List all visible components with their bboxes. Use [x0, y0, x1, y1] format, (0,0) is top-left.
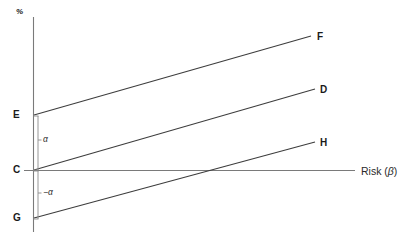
security-market-line-figure: % Risk (β) E C G F D H α −α	[0, 0, 417, 249]
chart-canvas	[0, 0, 417, 249]
point-label-f: F	[317, 31, 323, 42]
x-axis-label-text: Risk (	[361, 165, 388, 177]
series-line-cd	[34, 89, 315, 170]
x-axis-label-close: )	[394, 165, 398, 177]
y-axis-label: %	[16, 8, 23, 16]
series-line-ef	[34, 36, 311, 115]
point-label-e: E	[13, 109, 20, 120]
point-label-h: H	[320, 137, 327, 148]
point-label-d: D	[320, 84, 327, 95]
series-line-gh	[34, 142, 315, 218]
annotation-alpha-positive: α	[43, 134, 48, 144]
point-label-c: C	[13, 164, 20, 175]
point-label-g: G	[13, 212, 21, 223]
x-axis-label: Risk (β)	[361, 165, 397, 177]
annotation-alpha-negative: −α	[43, 187, 53, 197]
